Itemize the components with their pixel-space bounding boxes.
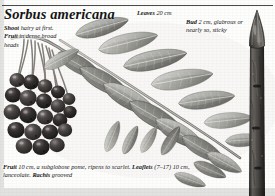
winter-twig-with-bud <box>249 10 265 196</box>
page-title: Sorbus americana <box>4 7 115 22</box>
caption-shoot: Shoot hairy at first. Fruit in dense bro… <box>4 24 58 49</box>
caption-bud: Bud 2 cm, glabrous or nearly so, sticky <box>186 18 248 35</box>
caption-shoot-label: Shoot <box>4 24 19 31</box>
illustration-page: Sorbus americana Shoot hairy at first. F… <box>0 0 275 196</box>
caption-fruit-label: Fruit <box>3 163 17 170</box>
caption-shoot-label-fruit: Fruit <box>4 32 18 39</box>
caption-fruit: Fruit 10 cm, a subglobose pome, ripens t… <box>3 163 218 180</box>
caption-bud-label: Bud <box>186 18 197 25</box>
caption-rachis-label: Rachis <box>32 171 50 178</box>
caption-leaflets-label: Leaflets <box>132 163 153 170</box>
caption-leaves: Leaves 20 cm <box>137 9 197 17</box>
caption-shoot-text: hairy at first. <box>19 24 54 31</box>
caption-leaves-text: 20 cm <box>155 9 172 16</box>
caption-rachis-text: grooved <box>50 171 72 178</box>
caption-fruit-text: 10 cm, a subglobose pome, ripens to scar… <box>17 163 132 170</box>
caption-leaves-label: Leaves <box>137 9 155 16</box>
